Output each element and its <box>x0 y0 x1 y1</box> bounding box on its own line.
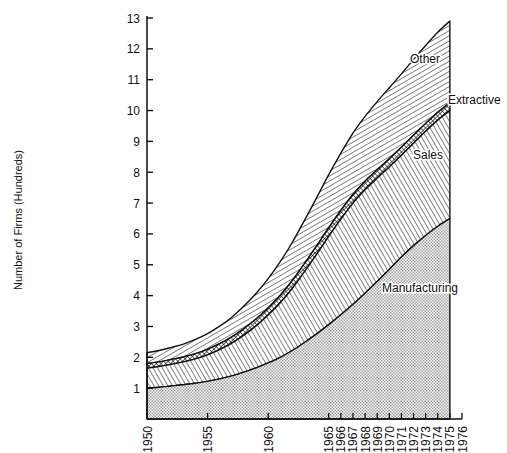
y-tick-label: 10 <box>127 104 141 118</box>
x-tick-label: 1950 <box>141 426 155 453</box>
y-tick-label: 8 <box>133 166 140 180</box>
y-tick-label: 5 <box>133 258 140 272</box>
series-label-text: Extractive <box>448 93 501 107</box>
series-label-text: Manufacturing <box>382 281 458 295</box>
series-label-sales: SalesSales <box>413 148 443 162</box>
x-axis-tick-labels: 1950195519601965196619671968196919701971… <box>141 426 470 453</box>
y-axis-tick-labels: 12345678910111213 <box>127 12 141 396</box>
y-axis-ticks <box>147 18 153 388</box>
series-label-text: Sales <box>413 148 443 162</box>
y-tick-label: 2 <box>133 351 140 365</box>
series-label-extractive: ExtractiveExtractive <box>448 93 501 107</box>
area-chart: 12345678910111213 1950195519601965196619… <box>0 0 507 453</box>
series-label-other: OtherOther <box>410 52 440 66</box>
y-tick-label: 13 <box>127 12 141 26</box>
y-tick-label: 11 <box>128 73 141 87</box>
series-label-text: Other <box>410 52 440 66</box>
series-label-manufacturing: ManufacturingManufacturing <box>382 281 458 295</box>
x-tick-label: 1960 <box>262 426 276 453</box>
chart-canvas: 12345678910111213 1950195519601965196619… <box>0 0 507 453</box>
x-tick-label: 1955 <box>201 426 215 453</box>
y-tick-label: 1 <box>133 382 140 396</box>
y-tick-label: 9 <box>133 135 140 149</box>
plot-area <box>147 21 450 419</box>
y-tick-label: 7 <box>133 197 140 211</box>
x-tick-label: 1976 <box>456 426 470 453</box>
y-tick-label: 12 <box>127 42 141 56</box>
y-tick-label: 3 <box>133 320 140 334</box>
y-axis-title: Number of Firms (Hundreds) <box>12 150 24 290</box>
y-tick-label: 6 <box>133 227 140 241</box>
y-tick-label: 4 <box>133 289 140 303</box>
